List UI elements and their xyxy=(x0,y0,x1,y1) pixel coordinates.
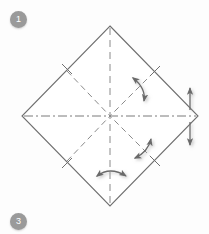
step-badge-3: 3 xyxy=(10,213,27,230)
origami-diagram: 1 3 xyxy=(0,0,209,234)
diagram-canvas xyxy=(0,0,209,234)
step-badge-1: 1 xyxy=(10,11,27,28)
step-badge-1-label: 1 xyxy=(16,14,21,24)
step-badge-3-label: 3 xyxy=(16,216,21,226)
